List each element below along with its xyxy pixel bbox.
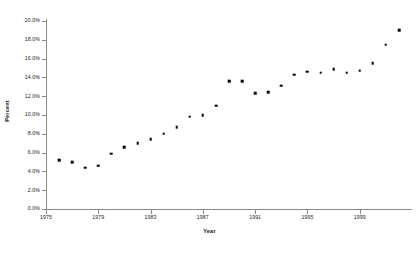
y-axis-tick-label: 8.0% [28,131,40,136]
data-point [162,133,165,136]
y-axis-tick [42,96,46,97]
x-axis-tick-label: 1983 [145,215,157,220]
y-axis-tick-label: 20.0% [25,18,40,23]
data-point [332,68,335,71]
y-axis-tick-label: 12.0% [25,94,40,99]
data-point [175,126,178,129]
y-axis-tick-label: 4.0% [28,169,40,174]
scatter-chart: 20.0%18.0%16.0%14.0%12.0%10.0%8.0%6.0%4.… [0,0,419,257]
y-axis-tick-label: 0.0% [28,206,40,211]
data-point [241,80,244,83]
data-point [254,92,257,95]
y-axis-tick [42,59,46,60]
data-point [293,73,296,76]
data-point [136,142,139,145]
data-point [110,152,113,155]
data-point [149,138,152,141]
y-axis-tick [42,190,46,191]
data-point [123,146,126,149]
data-point [228,80,231,83]
y-axis-tick [42,40,46,41]
data-point [358,70,361,73]
data-point [280,85,283,88]
y-axis-tick-label: 2.0% [28,188,40,193]
data-point [385,43,388,46]
y-axis-title: Percent [4,91,10,131]
x-axis-tick-label: 1995 [301,215,313,220]
data-point [371,62,374,65]
data-point [58,159,61,162]
data-point [202,114,205,117]
y-axis-tick [42,77,46,78]
y-axis-line [46,19,47,210]
data-point [398,29,401,32]
y-axis-tick-label: 14.0% [25,75,40,80]
x-axis-tick-label: 1987 [197,215,209,220]
data-point [71,161,74,164]
y-axis-tick-label: 10.0% [25,112,40,117]
data-point [345,71,348,74]
y-axis-tick [42,134,46,135]
data-point [84,166,87,169]
x-axis-title: Year [0,228,419,234]
x-axis-tick-label: 1975 [40,215,52,220]
x-axis-line [46,209,412,210]
data-point [97,164,100,167]
data-point [188,116,191,119]
data-point [215,104,218,107]
y-axis-tick-label: 16.0% [25,56,40,61]
y-axis-tick [42,171,46,172]
y-axis-tick-label: 18.0% [25,37,40,42]
y-axis-tick [42,21,46,22]
data-point [267,91,270,94]
data-point [306,70,309,73]
x-axis-tick-label: 1991 [249,215,261,220]
data-point [319,71,322,74]
y-axis-tick-label: 6.0% [28,150,40,155]
x-axis-tick-label: 1979 [92,215,104,220]
x-axis-tick-label: 1999 [354,215,366,220]
y-axis-tick [42,153,46,154]
y-axis-tick [42,115,46,116]
